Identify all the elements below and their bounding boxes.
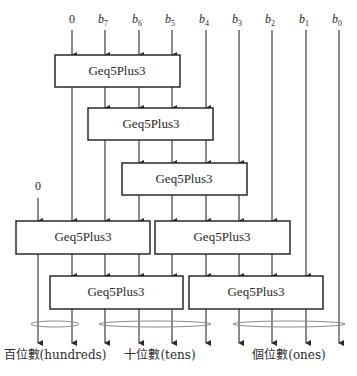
- module-geq5plus3-5: Geq5Plus3: [155, 221, 290, 254]
- module-geq5plus3-7: Geq5Plus3: [189, 276, 323, 309]
- module-label: Geq5Plus3: [54, 229, 111, 244]
- output-label-ones: 個位數(ones): [252, 347, 326, 362]
- input-label-b7: b7: [98, 12, 108, 28]
- input-label-b0: b0: [332, 12, 342, 28]
- module-label: Geq5Plus3: [87, 284, 144, 299]
- module-geq5plus3-2: Geq5Plus3: [88, 108, 213, 140]
- module-label: Geq5Plus3: [88, 63, 145, 78]
- module-geq5plus3-1: Geq5Plus3: [55, 55, 180, 87]
- input-label-b3: b3: [232, 12, 242, 28]
- ones-group-ellipse: [233, 321, 345, 327]
- module-label: Geq5Plus3: [122, 116, 179, 131]
- input-label-b1: b1: [299, 12, 309, 28]
- output-label-tens: 十位數(tens): [124, 347, 195, 362]
- bcd-converter-diagram: 0 b7 b6 b5 b4 b3 b2 b1 b0 0: [0, 0, 357, 376]
- module-geq5plus3-6: Geq5Plus3: [50, 276, 183, 309]
- output-label-hundreds: 百位數(hundreds): [4, 347, 107, 362]
- module-label: Geq5Plus3: [155, 171, 212, 186]
- input-label-extra-0: 0: [35, 179, 41, 193]
- tens-group-ellipse: [99, 321, 211, 327]
- module-label: Geq5Plus3: [227, 284, 284, 299]
- module-geq5plus3-3: Geq5Plus3: [122, 163, 247, 195]
- input-label-b2: b2: [265, 12, 275, 28]
- module-label: Geq5Plus3: [193, 229, 250, 244]
- input-label-0: 0: [69, 12, 75, 26]
- input-label-b5: b5: [165, 12, 175, 28]
- input-label-b4: b4: [199, 12, 209, 28]
- input-label-b6: b6: [132, 12, 142, 28]
- module-geq5plus3-4: Geq5Plus3: [16, 221, 150, 254]
